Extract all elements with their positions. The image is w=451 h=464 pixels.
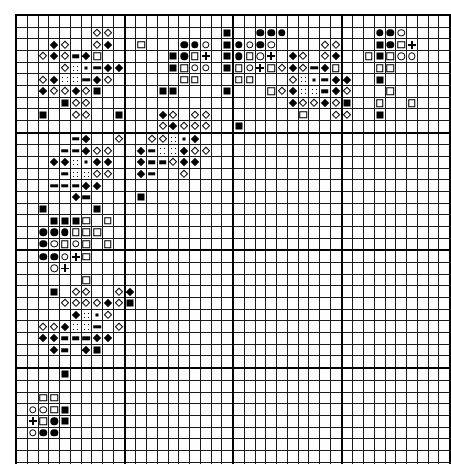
stitch-cell[interactable]	[244, 368, 255, 380]
stitch-cell[interactable]	[428, 215, 439, 227]
stitch-cell[interactable]	[147, 15, 158, 27]
stitch-cell[interactable]	[27, 133, 38, 145]
stitch-cell[interactable]	[277, 97, 288, 109]
stitch-cell[interactable]	[298, 368, 309, 380]
stitch-cell[interactable]	[309, 450, 320, 462]
stitch-cell[interactable]	[233, 215, 244, 227]
stitch-cell[interactable]	[60, 62, 71, 74]
stitch-cell[interactable]	[103, 203, 114, 215]
stitch-cell[interactable]	[353, 203, 364, 215]
stitch-cell[interactable]	[222, 227, 233, 239]
stitch-cell[interactable]	[92, 203, 103, 215]
stitch-cell[interactable]	[222, 450, 233, 462]
stitch-cell[interactable]	[374, 286, 385, 298]
stitch-cell[interactable]	[342, 133, 353, 145]
stitch-cell[interactable]	[364, 427, 375, 439]
stitch-cell[interactable]	[287, 250, 298, 262]
stitch-cell[interactable]	[364, 238, 375, 250]
stitch-cell[interactable]	[298, 227, 309, 239]
stitch-cell[interactable]	[222, 263, 233, 275]
stitch-cell[interactable]	[157, 97, 168, 109]
stitch-cell[interactable]	[342, 380, 353, 392]
stitch-cell[interactable]	[27, 263, 38, 275]
stitch-cell[interactable]	[200, 215, 211, 227]
stitch-cell[interactable]	[320, 86, 331, 98]
stitch-cell[interactable]	[70, 427, 81, 439]
stitch-cell[interactable]	[439, 263, 450, 275]
stitch-cell[interactable]	[364, 380, 375, 392]
stitch-cell[interactable]	[374, 39, 385, 51]
stitch-cell[interactable]	[190, 74, 201, 86]
stitch-cell[interactable]	[211, 321, 222, 333]
stitch-cell[interactable]	[147, 180, 158, 192]
stitch-cell[interactable]	[396, 344, 407, 356]
stitch-cell[interactable]	[298, 238, 309, 250]
stitch-cell[interactable]	[92, 415, 103, 427]
stitch-cell[interactable]	[244, 309, 255, 321]
stitch-cell[interactable]	[211, 415, 222, 427]
stitch-cell[interactable]	[255, 145, 266, 157]
stitch-cell[interactable]	[60, 74, 71, 86]
stitch-cell[interactable]	[49, 133, 60, 145]
stitch-cell[interactable]	[113, 380, 124, 392]
stitch-cell[interactable]	[125, 392, 136, 404]
stitch-cell[interactable]	[190, 263, 201, 275]
stitch-cell[interactable]	[407, 215, 418, 227]
stitch-cell[interactable]	[277, 133, 288, 145]
stitch-cell[interactable]	[70, 27, 81, 39]
stitch-cell[interactable]	[330, 39, 341, 51]
stitch-cell[interactable]	[147, 415, 158, 427]
stitch-cell[interactable]	[277, 145, 288, 157]
stitch-cell[interactable]	[136, 62, 147, 74]
stitch-cell[interactable]	[439, 51, 450, 63]
stitch-cell[interactable]	[147, 97, 158, 109]
stitch-cell[interactable]	[353, 274, 364, 286]
stitch-cell[interactable]	[113, 227, 124, 239]
stitch-cell[interactable]	[222, 439, 233, 451]
stitch-cell[interactable]	[92, 15, 103, 27]
stitch-cell[interactable]	[287, 203, 298, 215]
stitch-cell[interactable]	[103, 356, 114, 368]
stitch-cell[interactable]	[233, 86, 244, 98]
stitch-cell[interactable]	[92, 27, 103, 39]
stitch-cell[interactable]	[168, 86, 179, 98]
stitch-cell[interactable]	[103, 333, 114, 345]
stitch-cell[interactable]	[168, 51, 179, 63]
stitch-cell[interactable]	[374, 203, 385, 215]
stitch-cell[interactable]	[309, 227, 320, 239]
stitch-grid[interactable]	[15, 14, 451, 464]
stitch-cell[interactable]	[211, 39, 222, 51]
stitch-cell[interactable]	[60, 192, 71, 204]
stitch-cell[interactable]	[320, 157, 331, 169]
stitch-cell[interactable]	[342, 286, 353, 298]
stitch-cell[interactable]	[16, 344, 27, 356]
stitch-cell[interactable]	[38, 168, 49, 180]
stitch-cell[interactable]	[266, 286, 277, 298]
stitch-cell[interactable]	[320, 168, 331, 180]
stitch-cell[interactable]	[374, 133, 385, 145]
stitch-cell[interactable]	[179, 39, 190, 51]
stitch-cell[interactable]	[385, 86, 396, 98]
stitch-cell[interactable]	[277, 380, 288, 392]
stitch-cell[interactable]	[439, 344, 450, 356]
stitch-cell[interactable]	[113, 309, 124, 321]
stitch-cell[interactable]	[60, 168, 71, 180]
stitch-cell[interactable]	[255, 62, 266, 74]
stitch-cell[interactable]	[244, 404, 255, 416]
stitch-cell[interactable]	[179, 450, 190, 462]
stitch-cell[interactable]	[38, 439, 49, 451]
stitch-cell[interactable]	[244, 321, 255, 333]
stitch-cell[interactable]	[233, 450, 244, 462]
stitch-cell[interactable]	[277, 298, 288, 310]
stitch-cell[interactable]	[179, 298, 190, 310]
stitch-cell[interactable]	[439, 215, 450, 227]
stitch-cell[interactable]	[168, 39, 179, 51]
stitch-cell[interactable]	[70, 321, 81, 333]
stitch-cell[interactable]	[147, 145, 158, 157]
stitch-cell[interactable]	[113, 263, 124, 275]
stitch-cell[interactable]	[330, 238, 341, 250]
stitch-cell[interactable]	[417, 74, 428, 86]
stitch-cell[interactable]	[125, 344, 136, 356]
stitch-cell[interactable]	[309, 404, 320, 416]
stitch-cell[interactable]	[374, 309, 385, 321]
